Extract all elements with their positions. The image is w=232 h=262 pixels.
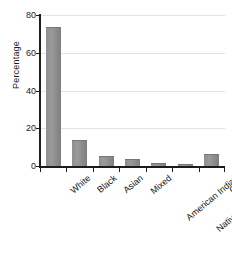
y-tick-label: 0: [12, 161, 36, 171]
x-tick-mark: [93, 168, 94, 172]
x-tick-label-line: White: [69, 173, 93, 195]
y-tick-mark: [36, 166, 40, 167]
x-tick-mark: [146, 168, 147, 172]
bar[interactable]: [204, 154, 219, 166]
x-tick-label[interactable]: American Indian: [184, 173, 232, 222]
x-tick-label-line: Asian: [121, 173, 145, 195]
gridline: [40, 53, 225, 54]
x-tick-label-line: Black: [95, 173, 118, 195]
x-tick-mark: [172, 168, 173, 172]
y-tick-label: 40: [12, 86, 36, 96]
x-axis-tick-marks: [40, 168, 225, 173]
y-tick-mark: [36, 128, 40, 129]
bar[interactable]: [46, 27, 61, 166]
x-tick-label-line: American Indian: [184, 173, 232, 222]
x-tick-label[interactable]: White: [69, 173, 93, 195]
x-tick-mark: [199, 168, 200, 172]
x-tick-mark: [66, 168, 67, 172]
x-tick-label[interactable]: Mixed: [148, 173, 173, 196]
gridline: [40, 15, 225, 16]
gridline: [40, 128, 225, 129]
y-tick-label: 80: [12, 10, 36, 20]
bar[interactable]: [72, 140, 87, 166]
y-tick-mark: [36, 15, 40, 16]
x-tick-label[interactable]: Asian: [121, 173, 145, 195]
plot-area: [40, 15, 225, 166]
y-tick-label: 60: [12, 48, 36, 58]
bar-chart: Percentage 020406080 WhiteBlackAsianMixe…: [0, 0, 232, 262]
y-tick-mark: [36, 91, 40, 92]
x-tick-mark: [119, 168, 120, 172]
bar[interactable]: [125, 159, 140, 166]
x-tick-mark: [224, 168, 225, 172]
x-tick-label-line: Mixed: [148, 173, 173, 196]
y-axis-tick-labels: 020406080: [10, 15, 36, 166]
y-tick-mark: [36, 53, 40, 54]
x-tick-label[interactable]: Black: [95, 173, 118, 195]
x-tick-mark: [40, 168, 41, 172]
y-tick-label: 20: [12, 123, 36, 133]
bar[interactable]: [99, 156, 114, 166]
gridline: [40, 91, 225, 92]
